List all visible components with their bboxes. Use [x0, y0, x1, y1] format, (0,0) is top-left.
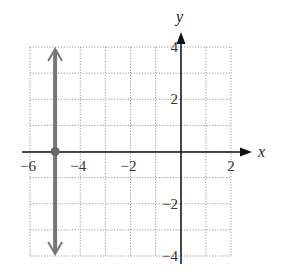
x-tick-label: −4 — [70, 158, 86, 174]
y-axis-label: y — [174, 8, 184, 26]
x-intercept-point — [51, 147, 60, 156]
x-tick-label: −6 — [20, 158, 36, 174]
y-tick-label: −2 — [162, 196, 178, 212]
coordinate-plane: x y −6−4−2242−2−4 — [0, 0, 284, 275]
x-tick-label: −2 — [121, 158, 137, 174]
y-tick-label: 4 — [171, 39, 179, 55]
x-axis-label: x — [257, 143, 265, 160]
y-tick-label: 2 — [171, 91, 179, 107]
x-axis-arrow-icon — [240, 148, 252, 157]
x-tick-label: 2 — [227, 158, 235, 174]
axes: x y — [22, 8, 265, 264]
y-tick-label: −4 — [162, 248, 178, 264]
